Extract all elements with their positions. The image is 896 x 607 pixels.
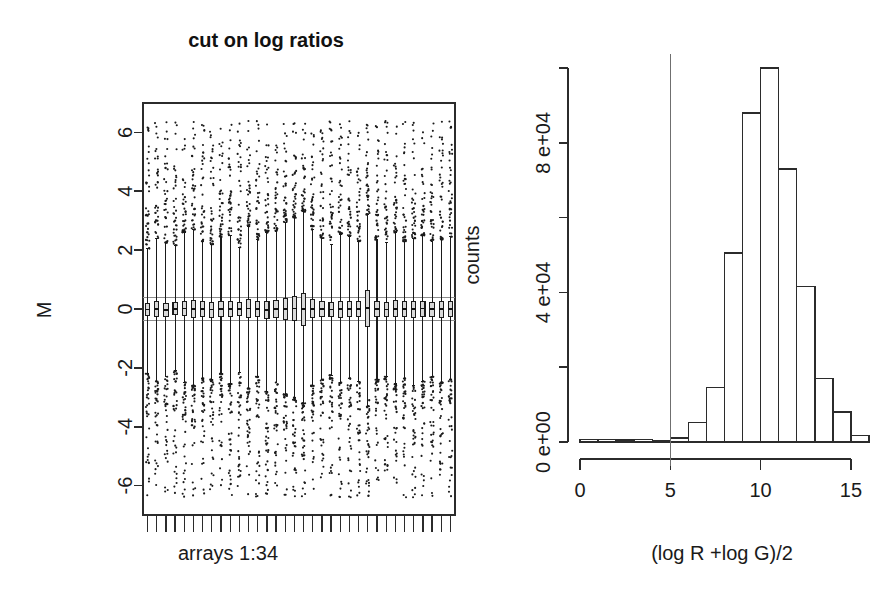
- outlier-point: [395, 441, 397, 443]
- outlier-point: [209, 242, 211, 244]
- outlier-point: [184, 443, 186, 445]
- outlier-point: [267, 427, 269, 429]
- outlier-point: [394, 226, 396, 228]
- outlier-point: [148, 151, 150, 153]
- outlier-point: [164, 155, 166, 157]
- outlier-point: [275, 382, 277, 384]
- outlier-point-labeled: [449, 208, 451, 210]
- outlier-point: [404, 143, 406, 145]
- outlier-point: [202, 176, 204, 178]
- outlier-point: [404, 464, 406, 466]
- outlier-point: [248, 146, 250, 148]
- outlier-point: [175, 217, 177, 219]
- outlier-point: [329, 120, 331, 122]
- boxplot-group-4: [172, 122, 178, 494]
- outlier-point: [439, 230, 441, 232]
- outlier-point: [414, 203, 416, 205]
- outlier-point: [174, 181, 176, 183]
- outlier-point: [273, 227, 275, 229]
- outlier-point: [240, 142, 242, 144]
- outlier-point: [450, 126, 452, 128]
- outlier-point: [212, 418, 214, 420]
- outlier-point: [347, 384, 349, 386]
- outlier-point: [184, 186, 186, 188]
- outlier-point: [148, 403, 150, 405]
- outlier-point: [285, 460, 287, 462]
- outlier-point: [258, 404, 260, 406]
- outlier-point: [183, 208, 185, 210]
- outlier-point: [404, 175, 406, 177]
- outlier-point: [220, 128, 222, 130]
- outlier-point: [451, 416, 453, 418]
- outlier-point: [320, 237, 322, 239]
- outlier-point: [267, 181, 269, 183]
- outlier-point: [218, 409, 220, 411]
- outlier-point: [331, 190, 333, 192]
- outlier-point: [175, 210, 177, 212]
- outlier-point: [174, 133, 176, 135]
- outlier-point: [238, 411, 240, 413]
- outlier-point: [450, 174, 452, 176]
- outlier-point: [310, 218, 312, 220]
- outlier-point: [155, 462, 157, 464]
- outlier-point: [441, 397, 443, 399]
- outlier-point: [386, 159, 388, 161]
- outlier-point: [439, 179, 441, 181]
- outlier-point: [256, 170, 258, 172]
- outlier-point: [266, 168, 268, 170]
- outlier-point: [322, 385, 324, 387]
- outlier-point: [358, 191, 360, 193]
- outlier-point-labeled: [340, 414, 342, 416]
- outlier-point: [320, 173, 322, 175]
- outlier-point: [349, 378, 351, 380]
- outlier-point: [221, 220, 223, 222]
- outlier-point-labeled: [386, 223, 388, 225]
- outlier-point: [430, 385, 432, 387]
- outlier-point: [209, 131, 211, 133]
- outlier-point: [304, 157, 306, 159]
- outlier-point: [228, 227, 230, 229]
- outlier-point: [220, 225, 222, 227]
- outlier-point: [331, 379, 333, 381]
- outlier-point: [173, 486, 175, 488]
- outlier-point: [450, 380, 452, 382]
- outlier-point: [210, 392, 212, 394]
- outlier-point: [219, 193, 221, 195]
- boxplot-group-12: [246, 120, 252, 495]
- outlier-point: [431, 147, 433, 149]
- outlier-point: [238, 382, 240, 384]
- outlier-point: [350, 445, 352, 447]
- outlier-point-labeled: [274, 208, 276, 210]
- outlier-point: [202, 144, 204, 146]
- outlier-point: [384, 403, 386, 405]
- outlier-point: [165, 436, 167, 438]
- outlier-point: [203, 435, 205, 437]
- outlier-point: [432, 234, 434, 236]
- outlier-point: [267, 397, 269, 399]
- outlier-point: [432, 446, 434, 448]
- outlier-point: [285, 219, 287, 221]
- boxplot-group-27: [383, 120, 389, 472]
- outlier-point: [229, 475, 231, 477]
- outlier-point: [303, 197, 305, 199]
- outlier-point: [375, 125, 377, 127]
- outlier-point: [285, 427, 287, 429]
- outlier-point: [148, 174, 150, 176]
- outlier-point: [321, 183, 323, 185]
- outlier-point: [238, 427, 240, 429]
- boxplot-group-15: [273, 144, 279, 486]
- outlier-point: [228, 488, 230, 490]
- outlier-point: [449, 159, 451, 161]
- outlier-point: [341, 389, 343, 391]
- outlier-point: [265, 440, 267, 442]
- outlier-point: [375, 235, 377, 237]
- outlier-point: [220, 223, 222, 225]
- outlier-point: [359, 240, 361, 242]
- outlier-point: [220, 379, 222, 381]
- outlier-point: [423, 475, 425, 477]
- outlier-point: [185, 462, 187, 464]
- outlier-point: [257, 392, 259, 394]
- outlier-point: [322, 197, 324, 199]
- outlier-point: [276, 227, 278, 229]
- outlier-point: [267, 203, 269, 205]
